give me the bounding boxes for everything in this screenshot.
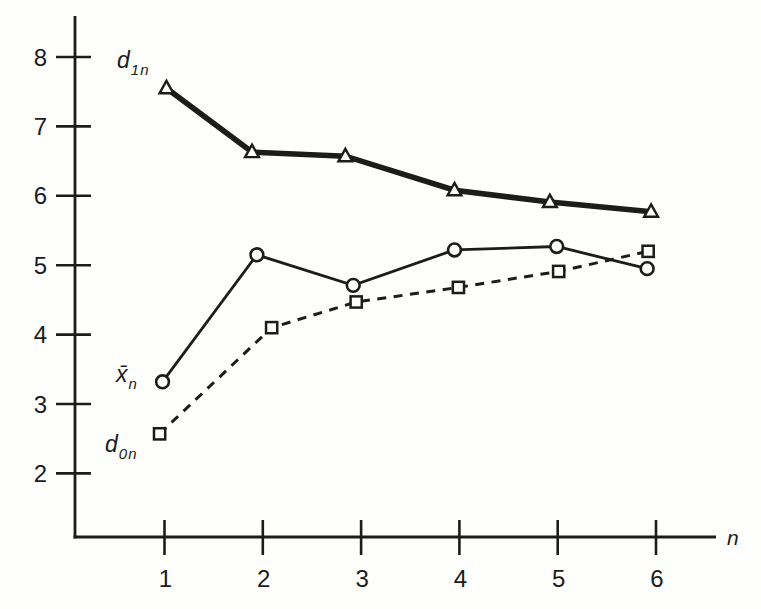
x-tick-label: 6: [650, 565, 663, 592]
y-tick-label: 5: [34, 252, 47, 279]
series-label-xbar-n-sub: n: [129, 375, 138, 392]
marker-circle-xbar_n: [156, 375, 169, 388]
series-label-d0n: d0n: [105, 432, 137, 463]
series-line-d1n: [167, 88, 652, 212]
x-axis-title: n: [727, 526, 739, 549]
y-tick-label: 6: [34, 182, 47, 209]
y-tick-label: 8: [34, 44, 47, 71]
marker-square-d0n: [266, 322, 277, 333]
series-label-xbar-n: x̄n: [116, 362, 138, 393]
y-tick-label: 3: [34, 391, 47, 418]
y-tick-label: 4: [34, 321, 47, 348]
x-tick-label: 4: [454, 565, 467, 592]
y-tick-label: 7: [34, 113, 47, 140]
x-tick-label: 3: [355, 565, 368, 592]
x-tick-label: 1: [159, 565, 172, 592]
marker-square-d0n: [553, 266, 564, 277]
series-line-d0n: [160, 251, 648, 433]
marker-circle-xbar_n: [641, 262, 654, 275]
marker-circle-xbar_n: [550, 240, 563, 253]
series-label-d1n-sub: 1n: [131, 61, 150, 78]
chart-canvas: 2345678123456n: [0, 0, 761, 609]
series-label-d1n-main: d: [117, 47, 130, 73]
chart-figure: 2345678123456n d1n x̄n d0n: [0, 0, 761, 609]
series-label-d0n-main: d: [105, 431, 118, 457]
marker-triangle-d1n: [160, 81, 174, 93]
series-label-xbar-n-main: x̄: [116, 361, 128, 387]
marker-square-d0n: [643, 246, 654, 257]
marker-square-d0n: [453, 282, 464, 293]
marker-circle-xbar_n: [347, 279, 360, 292]
marker-square-d0n: [154, 428, 165, 439]
x-tick-label: 2: [257, 565, 270, 592]
series-label-d1n: d1n: [117, 48, 149, 79]
series-label-d0n-sub: 0n: [119, 445, 138, 462]
marker-circle-xbar_n: [448, 244, 461, 257]
x-tick-label: 5: [552, 565, 565, 592]
marker-circle-xbar_n: [251, 248, 264, 261]
marker-square-d0n: [351, 296, 362, 307]
y-tick-label: 2: [34, 460, 47, 487]
